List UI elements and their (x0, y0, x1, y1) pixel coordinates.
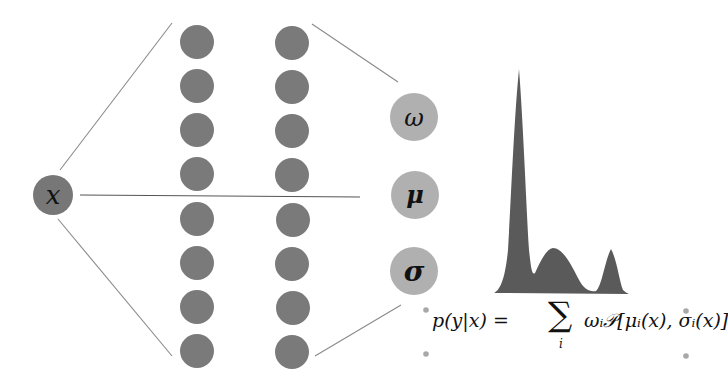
hidden-node (275, 158, 309, 192)
connection-line-input-top (60, 23, 172, 170)
sigma-label: σ (404, 255, 425, 288)
connection-line-input-bottom (58, 219, 172, 356)
hidden-node (180, 69, 214, 103)
input-node: x (33, 175, 73, 215)
formula-rhs: ωᵢ𝒫[μᵢ(x), σᵢ(x)] (584, 309, 728, 332)
selection-handle[interactable] (423, 351, 429, 357)
connection-line-output-top (312, 24, 398, 82)
formula-lhs: p(y|x) = (432, 309, 509, 331)
hidden-node (180, 246, 214, 280)
connection-line-output-bottom (315, 305, 401, 356)
mixture-density-formula: p(y|x) = ∑ i ωᵢ𝒫[μᵢ(x), σᵢ(x)] (432, 300, 682, 360)
selection-handle[interactable] (423, 307, 429, 313)
hidden-node (275, 114, 309, 148)
selection-handle[interactable] (683, 353, 689, 359)
input-node-label: x (46, 180, 61, 210)
hidden-node (180, 25, 214, 59)
mixture-density-plot (494, 69, 629, 294)
mu-label: μ (406, 180, 424, 209)
hidden-node (180, 334, 214, 368)
hidden-node (276, 291, 310, 325)
hidden-layer-2 (275, 26, 310, 369)
connection-line-input-middle (80, 195, 360, 197)
hidden-node (276, 203, 310, 237)
sum-symbol: ∑ (548, 297, 572, 331)
hidden-node (180, 113, 214, 147)
omega-label: ω (404, 104, 424, 132)
hidden-node (180, 157, 214, 191)
hidden-node (275, 26, 309, 60)
hidden-node (275, 335, 309, 369)
output-node-mu: μ (391, 171, 439, 219)
hidden-node (275, 247, 309, 281)
output-node-omega: ω (390, 93, 438, 141)
connections (58, 23, 401, 356)
hidden-node (180, 290, 214, 324)
sum-index: i (559, 337, 563, 351)
hidden-layer-1 (180, 25, 214, 368)
hidden-node (180, 202, 214, 236)
output-node-sigma: σ (390, 247, 438, 295)
hidden-node (275, 70, 309, 104)
